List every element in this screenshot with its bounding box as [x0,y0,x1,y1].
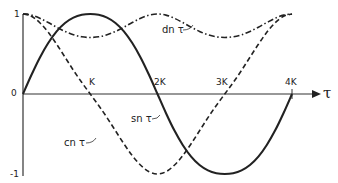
curve-label-cn: cn τ [64,138,85,148]
x-axis-arrow-icon [312,90,321,98]
sn-leader [152,115,160,119]
x-tick-label-k: K [89,78,95,87]
y-label-minus-one: -1 [10,170,19,179]
x-tick-label-3k: 3K [216,78,228,87]
y-label-zero: 0 [11,89,17,98]
curve-label-dn: dn τ [162,25,184,35]
x-tick-label-2k: 2K [154,78,166,87]
x-tick-label-4k: 4K [285,78,297,87]
curve-label-sn: sn τ [131,114,152,124]
y-label-one: 1 [14,10,20,19]
x-axis-label-tau: τ [323,86,331,101]
cn-leader [86,138,96,143]
